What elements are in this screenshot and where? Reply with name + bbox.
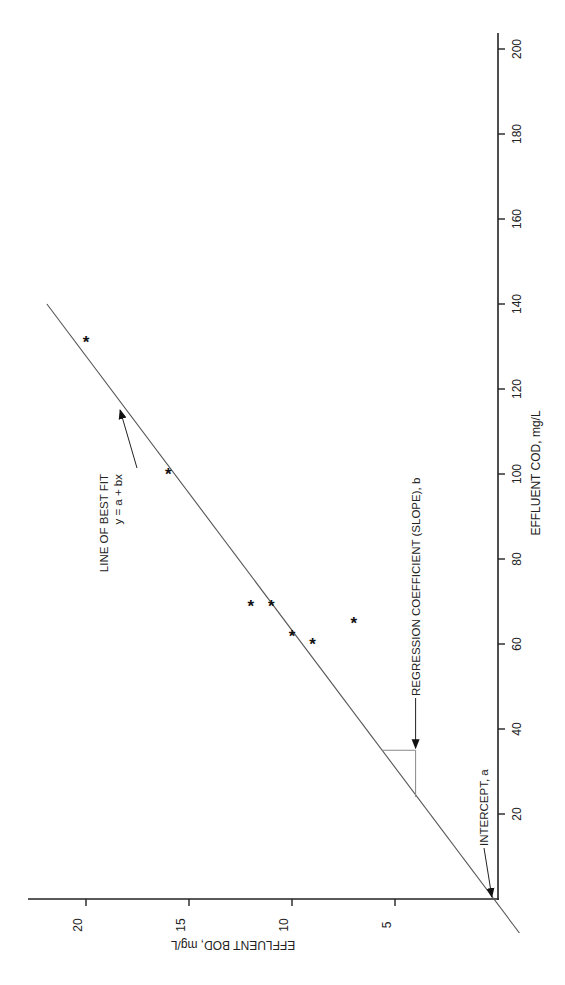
x-tick-label: 200 [510,39,524,59]
x-tick-label: 180 [510,124,524,144]
intercept-label: INTERCEPT, a [478,769,490,846]
x-tick-label: 120 [510,379,524,399]
x-tick-label: 160 [510,209,524,229]
data-point-marker: * [289,627,296,646]
y-tick-label: 20 [71,918,85,932]
x-tick-label: 80 [510,552,524,566]
best-fit-line-group [47,304,520,933]
intercept-arrow [484,848,492,897]
data-point-marker: * [247,597,254,616]
y-tick-label: 15 [174,918,188,932]
annotations: LINE OF BEST FITy = a + bxREGRESSION COE… [98,410,492,897]
chart-container: 204060801001201401601802005101520 ******… [0,0,565,985]
x-tick-label: 100 [510,464,524,484]
data-point-marker: * [83,333,90,352]
y-tick-label: 5 [380,921,394,928]
best-fit-label: LINE OF BEST FIT [98,474,110,572]
y-tick-label: 10 [277,918,291,932]
x-tick-label: 60 [510,637,524,651]
x-axis-title: EFFLUENT COD, mg/L [529,410,543,535]
scatter-chart: 204060801001201401601802005101520 ******… [0,0,565,985]
data-point-marker: * [350,614,357,633]
data-point-marker: * [268,597,275,616]
data-point-marker: * [309,635,316,654]
x-tick-label: 40 [510,722,524,736]
best-fit-equation: y = a + bx [112,474,124,525]
axis-titles: EFFLUENT COD, mg/L EFFLUENT BOD, mg/L [170,410,543,952]
best-fit-arrow [120,410,137,468]
best-fit-line [47,304,520,933]
slope-label: REGRESSION COEFFICIENT (SLOPE), b [410,478,422,696]
x-tick-label: 140 [510,294,524,314]
y-axis-title: EFFLUENT BOD, mg/L [170,938,295,952]
data-point-marker: * [165,465,172,484]
x-tick-label: 20 [510,807,524,821]
